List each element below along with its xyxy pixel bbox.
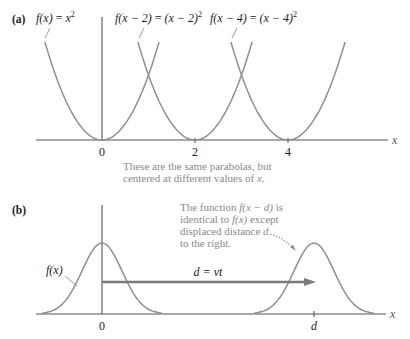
- tick-label-0: 0: [99, 145, 105, 159]
- panel-b: (b) x 0 d f(x) d = vt The function f(x −…: [12, 201, 396, 333]
- label-f-x-minus-2: f(x − 2) = (x − 2)2: [115, 10, 202, 25]
- tick-label-4: 4: [285, 145, 291, 159]
- panel-a: (a) x 0 2 4 f(x) = x2 f(x − 2) = (x − 2)…: [12, 10, 398, 184]
- label-f-x-minus-4: f(x − 4) = (x − 4)2: [210, 10, 297, 25]
- panel-b-label: (b): [12, 204, 26, 217]
- panel-a-label: (a): [12, 13, 26, 26]
- label-pulse-f-x: f(x): [46, 263, 63, 277]
- leader-line-f-x-minus-2: [139, 28, 144, 38]
- caption-line-1: These are the same parabolas, but: [123, 160, 271, 172]
- wave-displacement-figure: (a) x 0 2 4 f(x) = x2 f(x − 2) = (x − 2)…: [0, 0, 410, 339]
- tick-label-2: 2: [192, 145, 198, 159]
- displacement-label: d = vt: [194, 265, 223, 279]
- panel-b-x-axis-label: x: [389, 307, 396, 321]
- leader-line-pulse-f-x: [65, 276, 77, 286]
- tick-label-d: d: [311, 319, 318, 333]
- tick-label-0: 0: [99, 319, 105, 333]
- leader-line-f-x-minus-4: [232, 28, 237, 38]
- leader-line-f-x: [45, 28, 50, 38]
- dotted-pointer-arrow: [270, 234, 293, 248]
- arrowhead-icon: [304, 278, 316, 286]
- caption-line-2: centered at different values of x.: [123, 172, 265, 184]
- label-f-x: f(x) = x2: [36, 10, 75, 25]
- panel-a-x-axis-label: x: [391, 133, 398, 147]
- pulse-f-x-minus-d: [254, 243, 374, 313]
- note-line-4: to the right.: [180, 237, 231, 249]
- note-line-3: displaced distance d: [180, 225, 269, 237]
